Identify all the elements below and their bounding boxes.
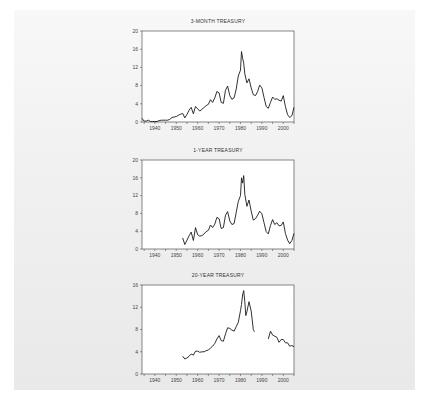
plot-frame: [142, 31, 294, 122]
y-tick-label: 12: [132, 64, 138, 70]
chart-1-year-treasury: 1-YEAR TREASURY 048121620194019501960197…: [0, 130, 427, 270]
chart-20-year-treasury: 20-YEAR TREASURY 04812161940195019601970…: [0, 255, 427, 395]
y-tick-label: 16: [132, 282, 138, 288]
y-tick-label: 4: [135, 349, 138, 355]
y-tick-label: 8: [135, 326, 138, 332]
y-tick-label: 20: [132, 157, 138, 163]
y-tick-label: 12: [132, 192, 138, 198]
y-tick-label: 16: [132, 46, 138, 52]
y-tick-label: 8: [135, 210, 138, 216]
chart-plot: 0481216201940195019601970198019902000: [0, 130, 427, 270]
plot-frame: [142, 285, 294, 374]
x-tick-label: 1940: [149, 377, 160, 383]
y-tick-label: 0: [135, 246, 138, 252]
y-tick-label: 0: [135, 371, 138, 377]
plot-frame: [142, 160, 294, 249]
chart-plot: 04812161940195019601970198019902000: [0, 255, 427, 395]
x-tick-label: 1960: [192, 377, 203, 383]
x-tick-label: 1970: [214, 377, 225, 383]
y-tick-label: 4: [135, 101, 138, 107]
x-tick-label: 1980: [235, 377, 246, 383]
chart-3-month-treasury: 3-MONTH TREASURY 04812162019401950196019…: [0, 0, 427, 140]
y-tick-label: 4: [135, 228, 138, 234]
y-tick-label: 0: [135, 119, 138, 125]
y-tick-label: 12: [132, 304, 138, 310]
y-tick-label: 16: [132, 175, 138, 181]
x-tick-label: 2000: [278, 377, 289, 383]
x-tick-label: 1990: [256, 377, 267, 383]
chart-plot: 0481216201940195019601970198019902000: [0, 0, 427, 140]
y-tick-label: 20: [132, 28, 138, 34]
x-tick-label: 1950: [171, 377, 182, 383]
y-tick-label: 8: [135, 82, 138, 88]
